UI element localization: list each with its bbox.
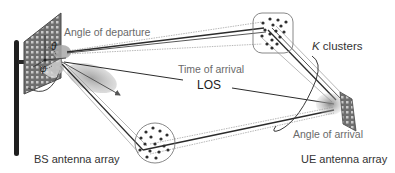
angle-of-arrival-label: Angle of arrival xyxy=(293,129,363,140)
phi-symbol: φ xyxy=(40,64,47,74)
k-clusters-text: clusters xyxy=(320,40,363,52)
angle-of-departure-label: Angle of departure xyxy=(64,27,150,38)
time-of-arrival-label: Time of arrival xyxy=(178,64,244,75)
k-symbol: K xyxy=(312,40,320,52)
k-clusters-brace xyxy=(274,56,319,131)
channel-model-diagram: θ φ Angle of departure Time of arrival L… xyxy=(0,0,395,173)
scatterer-cluster-bottom xyxy=(135,123,175,163)
theta-symbol: θ xyxy=(51,42,56,52)
rays-top-cluster-to-ue xyxy=(262,26,344,102)
los-label: LOS xyxy=(197,79,221,91)
ue-antenna xyxy=(316,92,356,131)
bs-antenna-array-label: BS antenna array xyxy=(34,154,120,165)
ue-antenna-array-label: UE antenna array xyxy=(301,154,387,165)
k-clusters-label: K clusters xyxy=(312,41,363,53)
